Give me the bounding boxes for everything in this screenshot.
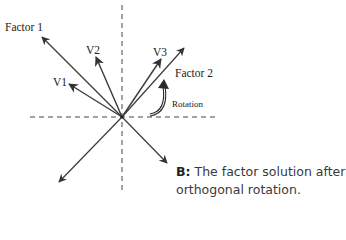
caption-text: The factor solution after <box>195 164 346 179</box>
caption-text-line2: orthogonal rotation. <box>176 182 301 197</box>
rotation-label: Rotation <box>172 99 203 109</box>
caption-prefix: B: <box>176 164 191 179</box>
rotation-arrow-icon <box>150 86 165 115</box>
factor2-negative-arrow <box>122 117 167 163</box>
v2-arrow <box>96 57 122 117</box>
figure-caption: B: The factor solution after orthogonal … <box>176 163 346 199</box>
v2-label: V2 <box>86 44 100 56</box>
v3-arrow <box>122 59 161 117</box>
factor1-negative-arrow <box>59 117 122 182</box>
v1-label: V1 <box>53 76 67 88</box>
v1-arrow <box>69 84 122 117</box>
factor2-label: Factor 2 <box>175 67 213 79</box>
factor1-label: Factor 1 <box>5 21 43 33</box>
v3-label: V3 <box>153 46 167 58</box>
